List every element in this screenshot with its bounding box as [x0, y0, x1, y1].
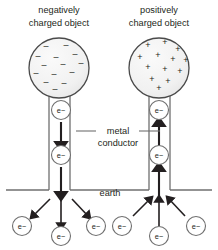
- positive-sign: +: [145, 62, 150, 72]
- positively-charged-sphere: +++++++++++++: [129, 37, 189, 98]
- free-right-electron-label: e−: [155, 232, 163, 241]
- negative-sign: –: [78, 58, 83, 68]
- caption-left: negatively charged object: [29, 5, 90, 28]
- negatively-charged-sphere: ––––––––––––––: [29, 38, 89, 98]
- conductor-label-line1: metal: [107, 126, 129, 136]
- negative-sign: –: [72, 49, 77, 59]
- left-flow-electron-label: e−: [57, 106, 65, 115]
- free-left-electron-label: e−: [57, 232, 65, 241]
- positive-sign: +: [170, 54, 175, 64]
- earth-label: earth: [100, 188, 121, 198]
- free-electrons-right: e−e−e−: [113, 199, 206, 246]
- free-left-arrow: [72, 199, 88, 216]
- free-left-electron-label: e−: [18, 222, 26, 231]
- free-left-electron-label: e−: [92, 222, 100, 231]
- positive-sign: +: [156, 83, 161, 93]
- positive-sign: +: [175, 44, 180, 54]
- metal-conductor-label: metal conductor: [76, 126, 160, 148]
- negative-sign: –: [61, 78, 66, 88]
- positive-sign: +: [155, 50, 160, 60]
- positive-sign: +: [162, 64, 167, 74]
- positive-sign: +: [177, 66, 182, 76]
- caption-left-line1: negatively: [38, 5, 80, 15]
- negative-sign: –: [43, 77, 48, 87]
- negative-sign: –: [35, 51, 40, 61]
- positive-sign: +: [145, 40, 150, 50]
- negative-sign: –: [41, 60, 46, 70]
- negative-sign: –: [33, 68, 38, 78]
- positive-sign: +: [162, 37, 167, 47]
- positive-sign: +: [137, 52, 142, 62]
- negative-sign: –: [43, 41, 48, 51]
- positive-sign: +: [165, 76, 170, 86]
- diagram-canvas: negatively charged object positively cha…: [0, 0, 218, 250]
- positive-sign: +: [183, 55, 188, 65]
- caption-right: positively charged object: [129, 5, 190, 28]
- negative-sign: –: [69, 67, 74, 77]
- caption-left-line2: charged object: [29, 18, 90, 28]
- conductor-label-line2: conductor: [98, 138, 138, 148]
- left-flow-electron-label: e−: [57, 151, 65, 160]
- caption-right-line2: charged object: [129, 18, 190, 28]
- free-left-arrow: [33, 199, 50, 216]
- free-right-arrow: [133, 199, 150, 216]
- right-flow-electron-label: e−: [155, 106, 163, 115]
- free-right-electron-label: e−: [192, 222, 200, 231]
- negative-sign: –: [63, 40, 68, 50]
- electrostatics-diagram: negatively charged object positively cha…: [0, 0, 218, 250]
- caption-right-line1: positively: [140, 5, 178, 15]
- negative-sign: –: [51, 69, 56, 79]
- negative-sign: –: [52, 84, 57, 94]
- free-electrons-left: e−e−e−: [13, 199, 106, 246]
- right-flow-electron-label: e−: [155, 151, 163, 160]
- free-right-electron-label: e−: [118, 222, 126, 231]
- positive-sign: +: [149, 74, 154, 84]
- free-right-arrow: [169, 199, 185, 216]
- negative-sign: –: [60, 59, 65, 69]
- negative-sign: –: [53, 52, 58, 62]
